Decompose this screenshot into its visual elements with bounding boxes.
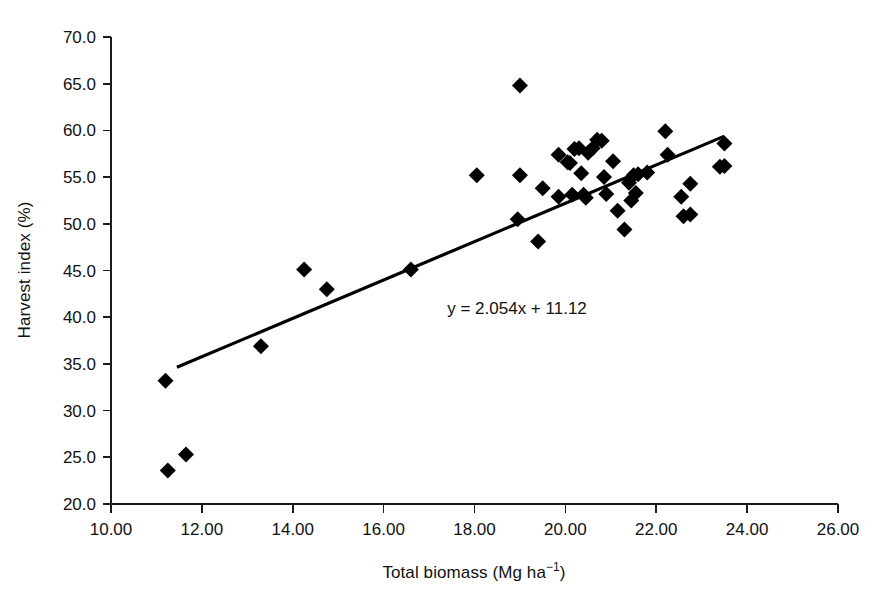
- y-tick-label: 30.0: [63, 402, 96, 421]
- y-tick-label: 35.0: [63, 355, 96, 374]
- x-tick-label: 26.00: [817, 520, 860, 539]
- regression-equation-label: y = 2.054x + 11.12: [447, 299, 587, 318]
- x-axis-title-exponent: −1: [546, 560, 560, 574]
- x-tick-labels: 10.0012.0014.0016.0018.0020.0022.0024.00…: [90, 520, 860, 539]
- y-tick-label: 65.0: [63, 75, 96, 94]
- y-tick-label: 55.0: [63, 168, 96, 187]
- x-axis-title-tail: ): [560, 563, 566, 582]
- x-tick-label: 12.00: [181, 520, 224, 539]
- y-axis-title: Harvest index (%): [15, 202, 34, 339]
- x-tick-label: 24.00: [726, 520, 769, 539]
- y-tick-label: 60.0: [63, 121, 96, 140]
- chart-background: [0, 0, 885, 601]
- scatter-chart: 20.025.030.035.040.045.050.055.060.065.0…: [0, 0, 885, 601]
- x-tick-label: 10.00: [90, 520, 133, 539]
- y-tick-label: 25.0: [63, 448, 96, 467]
- x-tick-label: 22.00: [635, 520, 678, 539]
- y-tick-label: 40.0: [63, 308, 96, 327]
- x-tick-label: 16.00: [362, 520, 405, 539]
- x-axis-title: Total biomass (Mg ha−1): [382, 560, 565, 582]
- y-tick-label: 50.0: [63, 215, 96, 234]
- x-axis-title-base: Total biomass (Mg ha: [382, 563, 546, 582]
- y-tick-label: 45.0: [63, 262, 96, 281]
- y-tick-label: 70.0: [63, 28, 96, 47]
- y-tick-label: 20.0: [63, 495, 96, 514]
- x-tick-label: 18.00: [453, 520, 496, 539]
- x-tick-label: 14.00: [271, 520, 314, 539]
- x-tick-label: 20.00: [544, 520, 587, 539]
